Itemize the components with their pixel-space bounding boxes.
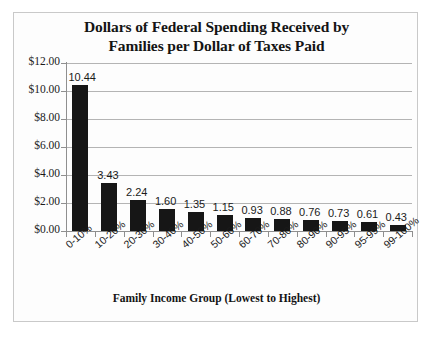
bar-value-label: 1.15 [213,201,234,213]
y-axis-tick-label: $8.00 [4,111,60,123]
bar-value-label: 1.35 [184,198,205,210]
bar-value-label: 0.73 [328,207,349,219]
chart-title-line-2: Families per Dollar of Taxes Paid [24,36,409,55]
y-axis-tick-label: $6.00 [4,139,60,151]
y-axis-tick-label: $0.00 [4,223,60,235]
bar-value-label: 0.61 [357,208,378,220]
bar-value-label: 0.76 [299,206,320,218]
bar-value-label: 3.43 [97,169,118,181]
bar-value-labels: 10.443.432.241.601.351.150.930.880.760.7… [66,63,426,235]
chart-figure: Dollars of Federal Spending Received by … [0,0,435,343]
bar-value-label: 1.60 [155,195,176,207]
bar-value-label: 10.44 [68,71,96,83]
y-axis-tick-label: $4.00 [4,167,60,179]
chart-title: Dollars of Federal Spending Received by … [24,17,409,55]
y-axis-tick-label: $12.00 [4,55,60,67]
y-axis-tick-label: $10.00 [4,83,60,95]
y-axis-tick-label: $2.00 [4,195,60,207]
x-axis-title: Family Income Group (Lowest to Highest) [24,292,409,304]
chart-title-line-1: Dollars of Federal Spending Received by [24,17,409,36]
bar-value-label: 0.88 [270,205,291,217]
bar-value-label: 2.24 [126,186,147,198]
x-axis-tick-labels: 0-10%10-20%20-30%30-40%40-50%50-60%60-70… [0,235,435,291]
bar-value-label: 0.93 [241,204,262,216]
